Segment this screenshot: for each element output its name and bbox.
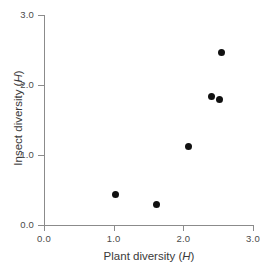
y-axis-tick — [38, 85, 44, 86]
x-axis-tick-label: 3.0 — [238, 233, 267, 244]
x-axis-tick — [183, 226, 184, 231]
y-axis-title: Insect diversity (H) — [12, 8, 24, 228]
y-axis-title-symbol: H — [12, 74, 24, 82]
x-axis-title-symbol: H — [182, 250, 190, 262]
x-axis-tick — [253, 226, 254, 231]
x-axis-title: Plant diversity (H) — [44, 250, 254, 262]
y-axis-tick — [38, 155, 44, 156]
x-axis-tick — [44, 226, 45, 231]
x-axis-tick-label: 1.0 — [99, 233, 129, 244]
data-point — [216, 96, 223, 103]
scatter-plot-figure: 0.01.02.03.0 0.01.02.03.0 Plant diversit… — [0, 0, 267, 272]
y-axis-title-text: Insect diversity ( — [12, 83, 24, 166]
x-axis-line — [44, 225, 254, 226]
plot-area — [44, 15, 253, 225]
data-point — [218, 49, 225, 56]
data-point — [112, 191, 119, 198]
y-axis-line — [44, 15, 45, 226]
x-axis-tick-label: 0.0 — [29, 233, 59, 244]
x-axis-tick-label: 2.0 — [168, 233, 198, 244]
x-axis-title-text: Plant diversity ( — [104, 250, 183, 262]
x-axis-title-suffix: ) — [191, 250, 195, 262]
y-axis-title-suffix: ) — [12, 70, 24, 74]
data-point — [153, 201, 160, 208]
y-axis-tick — [38, 15, 44, 16]
x-axis-tick — [114, 226, 115, 231]
